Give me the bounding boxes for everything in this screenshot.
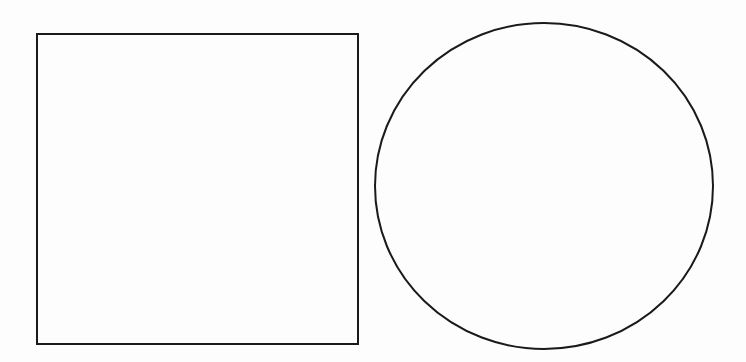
circle-shape	[375, 23, 713, 349]
diagram-canvas	[0, 0, 746, 362]
square-shape	[37, 34, 358, 344]
